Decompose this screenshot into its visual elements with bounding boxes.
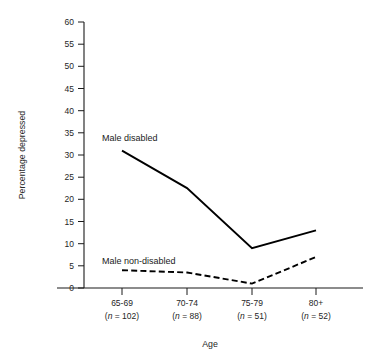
y-axis-tick-labels: 0 5 10 15 20 25 30 35 40 45 50 55 60 [65,17,75,293]
y-tick-label: 35 [65,128,75,138]
x-tick-label: 70-74 [176,298,198,308]
line-chart: 0 5 10 15 20 25 30 35 40 45 50 55 60 65-… [0,0,380,363]
y-tick-label: 5 [69,261,74,271]
y-tick-label: 50 [65,61,75,71]
y-tick-label: 0 [69,283,74,293]
series-line-male-disabled [122,151,316,249]
x-tick-sample-size: (n = 51) [237,311,267,321]
y-axis-ticks [78,22,84,288]
x-tick-label: 80+ [309,298,323,308]
x-axis-title: Age [202,339,218,349]
y-tick-label: 55 [65,39,75,49]
y-tick-label: 10 [65,239,75,249]
y-tick-label: 45 [65,84,75,94]
x-axis-tick-labels: 65-69 70-74 75-79 80+ (n = 102) (n = 88)… [105,298,331,321]
series-annotation-male-non-disabled: Male non-disabled [102,256,176,266]
y-tick-label: 25 [65,172,75,182]
chart-figure: 0 5 10 15 20 25 30 35 40 45 50 55 60 65-… [0,0,380,363]
x-tick-label: 65-69 [111,298,133,308]
y-tick-label: 15 [65,217,75,227]
x-tick-sample-size: (n = 88) [172,311,202,321]
series-annotation-male-disabled: Male disabled [102,133,158,143]
y-tick-label: 40 [65,106,75,116]
y-tick-label: 30 [65,150,75,160]
x-tick-label: 75-79 [241,298,263,308]
x-tick-sample-size: (n = 52) [301,311,331,321]
x-axis-ticks [122,288,316,295]
y-tick-label: 20 [65,194,75,204]
x-tick-sample-size: (n = 102) [105,311,139,321]
y-axis-title: Percentage depressed [17,111,27,200]
y-tick-label: 60 [65,17,75,27]
